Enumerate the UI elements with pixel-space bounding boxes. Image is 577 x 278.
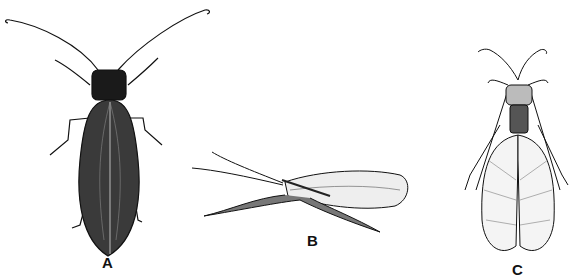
insect-a-illustration [6,10,210,256]
panel-label-c: C [512,262,523,277]
panel-label-a: A [102,255,113,270]
panel-label-b: B [307,233,318,248]
insect-c-illustration [465,49,568,250]
insect-b-illustration [192,152,408,232]
